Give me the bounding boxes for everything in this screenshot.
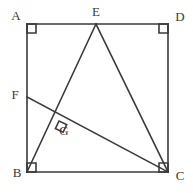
right-angle-marker-a bbox=[27, 24, 36, 33]
vertex-label-d: D bbox=[175, 9, 184, 24]
vertex-label-e: E bbox=[92, 4, 100, 19]
vertex-label-g: G bbox=[59, 123, 68, 138]
vertex-label-f: F bbox=[11, 87, 18, 102]
segment-be bbox=[27, 24, 96, 172]
vertex-label-c: C bbox=[176, 168, 185, 183]
geometry-figure: AEDFGBC bbox=[0, 0, 193, 193]
segment-ec bbox=[96, 24, 168, 172]
segment-fc bbox=[27, 97, 168, 172]
right-angle-markers-group bbox=[27, 24, 168, 172]
vertex-label-b: B bbox=[13, 165, 22, 180]
vertex-label-a: A bbox=[11, 8, 21, 23]
right-angle-marker-d bbox=[159, 24, 168, 33]
figure-canvas: AEDFGBC bbox=[0, 0, 193, 193]
segments-group bbox=[27, 24, 168, 172]
